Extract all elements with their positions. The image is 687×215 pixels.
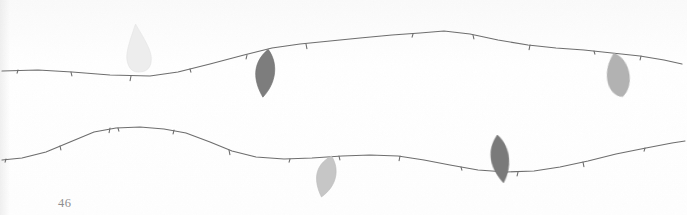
branch-illustration [0, 0, 687, 215]
leaf-light-lower-left [310, 153, 341, 199]
branch-bud [517, 172, 518, 176]
branch-bud [583, 162, 584, 167]
branch-bud [289, 159, 290, 162]
branch-bud [60, 146, 61, 150]
branch-bud [306, 44, 307, 49]
branch-bud [473, 35, 474, 39]
lower-leaves [310, 134, 510, 199]
branch-bud [130, 76, 131, 81]
branch-bud [246, 55, 247, 59]
leaf-gray-upper-right [604, 52, 632, 99]
branch-bud [412, 34, 413, 37]
lower-branch-stroke [2, 127, 685, 172]
leaf-dark-lower-right [489, 134, 510, 183]
lower-branch-group [2, 127, 685, 176]
upper-leaves [123, 23, 632, 99]
upper-branch-group [2, 31, 682, 81]
branch-bud [190, 69, 191, 72]
leaf-pale-upper-left [123, 23, 152, 73]
page-number: 46 [58, 197, 72, 210]
leaf-dark-upper-mid [251, 48, 278, 99]
upper-branch-stroke [2, 31, 682, 76]
scanned-page: 46 [0, 0, 687, 215]
